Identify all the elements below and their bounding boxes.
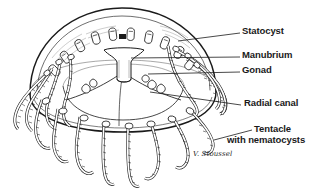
label-manubrium[interactable]: Manubrium [242, 49, 292, 60]
artist-signature: V. Stoussel [193, 150, 232, 158]
label-statocyst[interactable]: Statocyst [242, 25, 284, 36]
label-radial-canal[interactable]: Radial canal [244, 97, 298, 108]
label-tentacle-nematocysts[interactable]: with nematocysts [227, 134, 305, 145]
figure-root: Statocyst Manubrium Gonad Radial canal T… [0, 0, 321, 192]
label-gonad[interactable]: Gonad [242, 64, 272, 75]
label-tentacle[interactable]: Tentacle [254, 123, 291, 134]
